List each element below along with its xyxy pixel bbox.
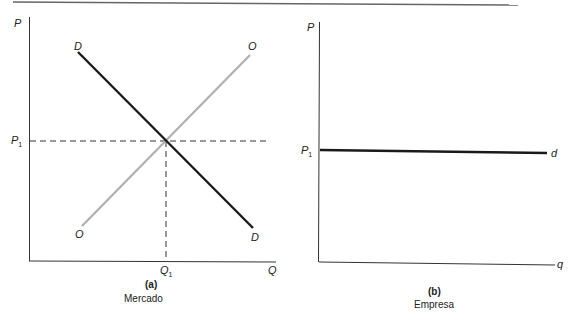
panel-b-letter: (b) — [428, 286, 441, 297]
x-axis — [29, 261, 276, 262]
p1-label: P1 — [301, 144, 312, 158]
demand-label-top: D — [74, 40, 82, 52]
panel-b-caption: Empresa — [414, 299, 454, 310]
y-axis-label: P — [14, 17, 22, 29]
y-axis-label: P — [307, 21, 315, 33]
firm-demand-label: d — [551, 147, 558, 159]
panel-a-market: P Q D D O O P1 Q1 (a) Mercado — [11, 17, 277, 304]
x-axis-label: q — [557, 258, 564, 270]
firm-demand-curve — [320, 150, 547, 153]
supply-label-bottom: O — [75, 228, 84, 240]
p1-label: P1 — [11, 134, 22, 148]
top-rule — [13, 2, 518, 5]
supply-label-top: O — [248, 40, 257, 52]
figure: P Q D D O O P1 Q1 (a) Mercado P q d P1 (… — [0, 0, 569, 319]
panel-a-caption: Mercado — [124, 293, 163, 304]
x-axis — [319, 262, 555, 265]
x-axis-label: Q — [268, 264, 277, 276]
panel-a-letter: (a) — [145, 279, 157, 290]
demand-label-bottom: D — [251, 231, 259, 243]
panel-b-firm: P q d P1 (b) Empresa — [301, 21, 564, 310]
q1-label: Q1 — [160, 264, 173, 278]
y-axis — [319, 22, 320, 262]
